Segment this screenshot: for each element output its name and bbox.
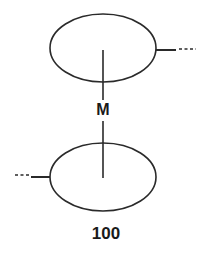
diagram-canvas	[0, 0, 209, 253]
reference-numeral: 100	[86, 224, 126, 244]
connector-label: M	[91, 101, 115, 119]
